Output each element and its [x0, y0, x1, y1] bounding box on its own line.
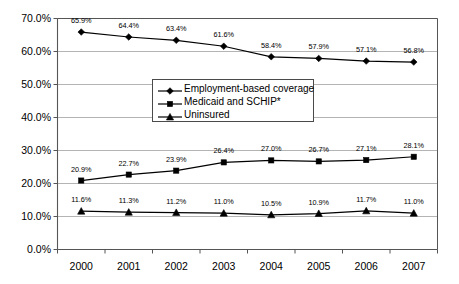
y-axis-tick-label: 0.0% [5, 243, 51, 255]
marker-diamond [173, 37, 180, 44]
data-point-label: 11.2% [156, 197, 196, 206]
y-axis-tick-label: 60.0% [5, 45, 51, 57]
data-point-label: 57.9% [299, 42, 339, 51]
data-point-label: 27.0% [251, 144, 291, 153]
data-point-label: 11.7% [346, 195, 386, 204]
data-point-label: 26.4% [204, 146, 244, 155]
data-point-label: 61.6% [204, 30, 244, 39]
line-chart: 0.0%10.0%20.0%30.0%40.0%50.0%60.0%70.0% … [0, 0, 459, 284]
x-axis-tick-label: 2004 [248, 260, 294, 272]
marker-square [411, 154, 416, 159]
x-axis-tick-label: 2005 [296, 260, 342, 272]
data-point-label: 20.9% [61, 165, 101, 174]
chart-legend: Employment-based coverageMedicaid and SC… [152, 79, 314, 122]
marker-square [316, 159, 321, 164]
data-point-label: 26.7% [299, 145, 339, 154]
marker-diamond [220, 43, 227, 50]
marker-diamond [268, 53, 275, 60]
chart-plot-area [0, 0, 459, 284]
data-point-label: 56.8% [394, 46, 434, 55]
data-point-label: 64.4% [109, 21, 149, 30]
legend-item-3[interactable]: Uninsured [153, 108, 313, 121]
marker-diamond [410, 59, 417, 66]
data-point-label: 22.7% [109, 159, 149, 168]
legend-marker-triangle-icon [157, 109, 183, 121]
data-point-label: 27.1% [346, 144, 386, 153]
legend-marker-square-icon [157, 96, 183, 108]
legend-item-1[interactable]: Employment-based coverage [153, 82, 313, 95]
x-axis-tick-label: 2002 [153, 260, 199, 272]
data-point-label: 11.6% [61, 195, 101, 204]
marker-square [126, 172, 131, 177]
legend-marker-diamond-icon [157, 83, 183, 95]
data-point-label: 11.0% [204, 197, 244, 206]
marker-diamond [315, 55, 322, 62]
marker-diamond [125, 34, 132, 41]
y-axis-tick-label: 70.0% [5, 12, 51, 24]
legend-label: Medicaid and SCHIP* [183, 96, 281, 107]
marker-diamond [167, 87, 174, 94]
marker-diamond [78, 29, 85, 36]
y-axis-tick-label: 10.0% [5, 210, 51, 222]
data-point-label: 10.5% [251, 199, 291, 208]
data-point-label: 63.4% [156, 24, 196, 33]
y-axis-tick-label: 40.0% [5, 111, 51, 123]
data-point-label: 65.9% [61, 16, 101, 25]
y-axis-tick-label: 50.0% [5, 78, 51, 90]
x-axis-tick-label: 2007 [391, 260, 437, 272]
legend-label: Uninsured [183, 109, 230, 120]
marker-square [364, 157, 369, 162]
marker-square [167, 101, 172, 106]
x-axis-tick-label: 2006 [343, 260, 389, 272]
marker-square [221, 160, 226, 165]
y-axis-tick-label: 20.0% [5, 177, 51, 189]
marker-square [79, 178, 84, 183]
data-point-label: 10.9% [299, 198, 339, 207]
marker-square [269, 158, 274, 163]
x-axis-tick-label: 2000 [58, 260, 104, 272]
data-point-label: 11.3% [109, 196, 149, 205]
x-axis-tick-label: 2003 [201, 260, 247, 272]
marker-diamond [363, 58, 370, 65]
legend-label: Employment-based coverage [183, 83, 314, 94]
y-axis-tick-label: 30.0% [5, 144, 51, 156]
x-axis-tick-label: 2001 [106, 260, 152, 272]
marker-square [174, 168, 179, 173]
data-point-label: 58.4% [251, 41, 291, 50]
legend-item-2[interactable]: Medicaid and SCHIP* [153, 95, 313, 108]
data-point-label: 23.9% [156, 155, 196, 164]
data-point-label: 11.0% [394, 197, 434, 206]
data-point-label: 57.1% [346, 45, 386, 54]
data-point-label: 28.1% [394, 141, 434, 150]
